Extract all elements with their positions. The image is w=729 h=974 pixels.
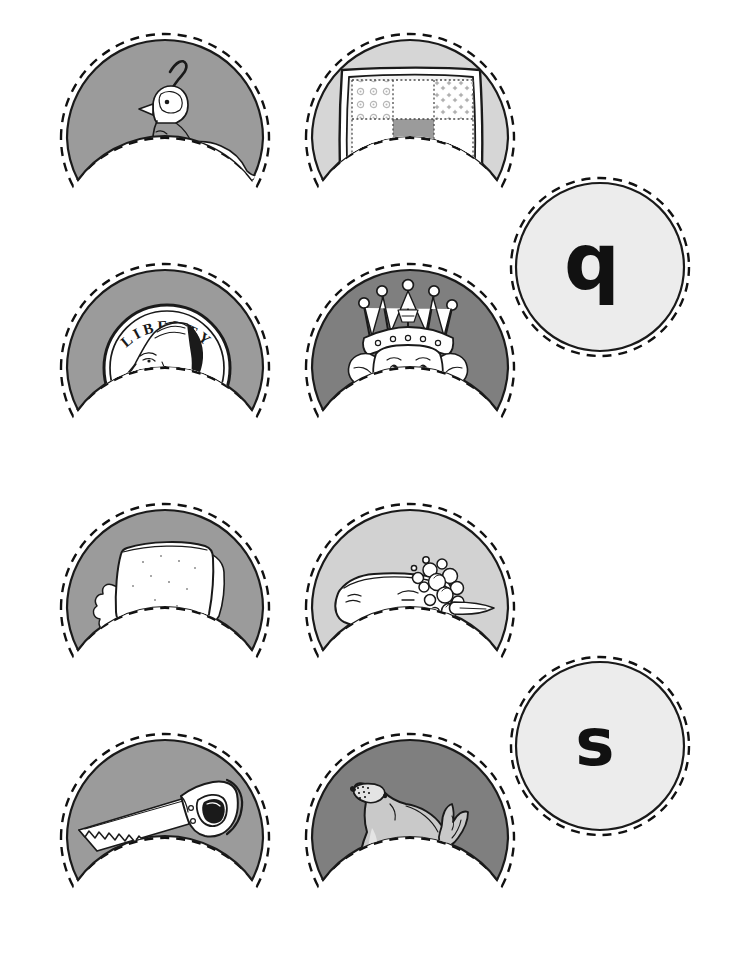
coin-date-text: 1932 — [148, 391, 187, 409]
letter-glyph-s: s — [575, 704, 614, 781]
worksheet-sheet: q LIBERTY — [0, 0, 729, 974]
picture-card-quail[interactable] — [57, 20, 273, 252]
queen-icon — [345, 280, 472, 436]
letter-card-s[interactable]: s — [506, 652, 694, 840]
letter-card-q[interactable]: q — [506, 173, 694, 361]
picture-card-soap[interactable] — [302, 490, 518, 722]
picture-card-sandwich[interactable] — [57, 490, 273, 722]
picture-card-quilt[interactable] — [302, 20, 518, 252]
picture-card-seal[interactable] — [302, 720, 518, 952]
quilt-patch-grid — [352, 80, 473, 199]
letter-glyph-q: q — [564, 217, 620, 307]
picture-card-quarter[interactable]: LIBERTY 1932 — [57, 250, 273, 482]
picture-card-saw[interactable] — [57, 720, 273, 952]
picture-card-queen[interactable] — [302, 250, 518, 482]
